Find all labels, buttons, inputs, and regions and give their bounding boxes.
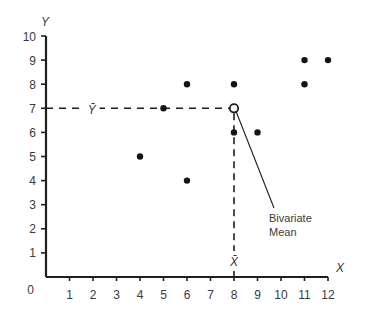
annotation-text: Bivariate xyxy=(269,212,312,224)
y-tick-label: 9 xyxy=(29,54,36,68)
x-axis-title: X xyxy=(335,261,345,275)
x-tick-label: 8 xyxy=(231,288,238,302)
x-tick-label: 11 xyxy=(298,288,311,302)
data-point xyxy=(231,129,237,135)
data-point xyxy=(160,105,166,111)
y-tick-label: 3 xyxy=(29,198,36,212)
y-tick-label: 4 xyxy=(29,174,36,188)
data-point xyxy=(254,129,260,135)
data-point xyxy=(184,81,190,87)
y-tick-label: 2 xyxy=(29,222,36,236)
y-tick-label: 5 xyxy=(29,150,36,164)
annotation-text: Mean xyxy=(269,226,297,238)
x-tick-label: 2 xyxy=(90,288,97,302)
y-tick-label: 10 xyxy=(23,30,37,44)
data-point xyxy=(184,177,190,183)
x-tick-label: 1 xyxy=(66,288,73,302)
x-tick-label: 3 xyxy=(113,288,120,302)
x-tick-label: 6 xyxy=(184,288,191,302)
y-tick-label: 1 xyxy=(29,246,36,260)
x-tick-label: 5 xyxy=(160,288,167,302)
origin-label: 0 xyxy=(27,283,34,297)
x-tick-label: 7 xyxy=(207,288,214,302)
y-tick-label: 8 xyxy=(29,78,36,92)
data-point xyxy=(301,57,307,63)
x-tick-label: 10 xyxy=(274,288,288,302)
y-tick-label: 7 xyxy=(29,102,36,116)
x-mean-label: X̄ xyxy=(229,255,239,269)
y-mean-label: Ȳ xyxy=(88,103,97,117)
data-point xyxy=(231,81,237,87)
x-tick-label: 12 xyxy=(321,288,335,302)
x-tick-label: 4 xyxy=(137,288,144,302)
annotation-leader-line xyxy=(236,111,274,208)
bivariate-mean-marker xyxy=(230,104,238,112)
y-axis-title: Y xyxy=(41,15,50,29)
x-tick-label: 9 xyxy=(254,288,261,302)
data-point xyxy=(301,81,307,87)
data-point xyxy=(325,57,331,63)
scatter-chart: 123456789101234567891011120YXȲX̄Bivariat… xyxy=(0,0,369,333)
y-tick-label: 6 xyxy=(29,126,36,140)
data-point xyxy=(137,153,143,159)
